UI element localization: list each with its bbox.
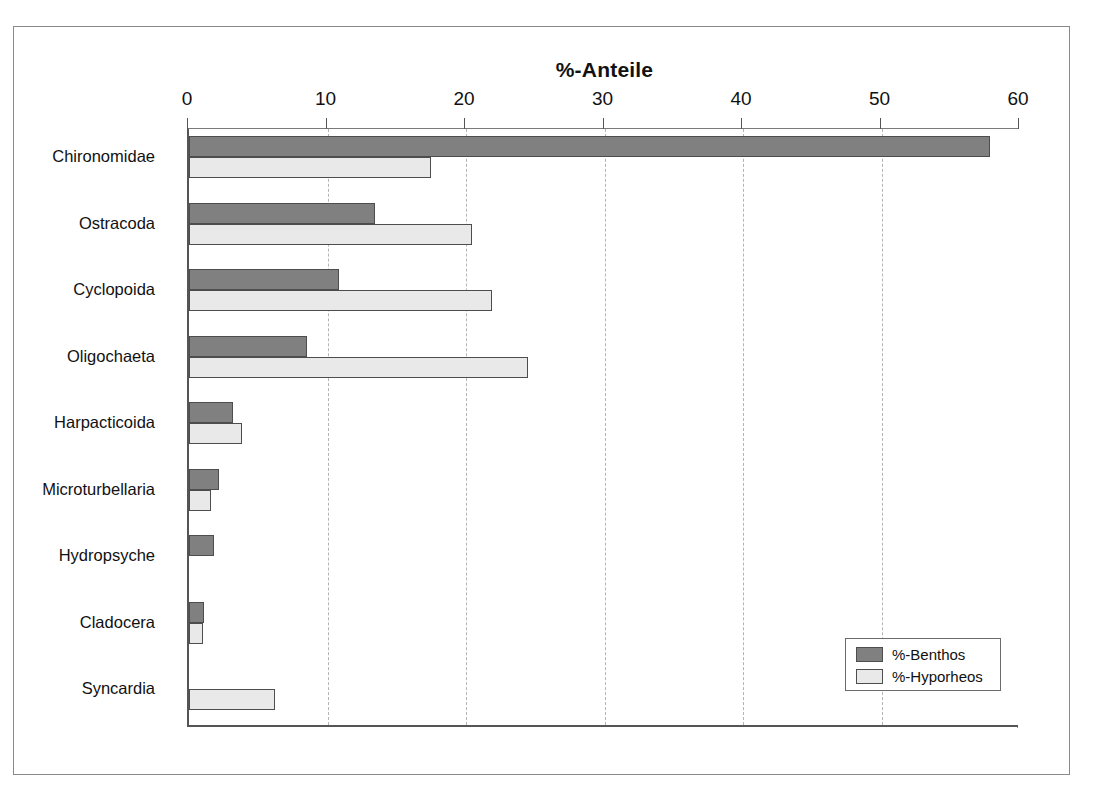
bar-hyporheos	[189, 623, 203, 644]
bar-group	[189, 469, 1018, 511]
x-tick-mark	[603, 118, 604, 129]
bar-hyporheos	[189, 224, 472, 245]
x-tick-mark	[464, 118, 465, 129]
x-tick-label: 0	[182, 88, 193, 110]
x-tick-label: 10	[315, 88, 336, 110]
x-tick-label: 40	[730, 88, 751, 110]
x-tick-label: 30	[592, 88, 613, 110]
x-tick-mark	[326, 118, 327, 129]
chart-page: %-Anteile 0102030405060 ChironomidaeOstr…	[0, 0, 1095, 799]
x-tick-mark	[187, 118, 188, 129]
bar-benthos	[189, 203, 375, 224]
category-label: Harpacticoida	[54, 413, 155, 432]
bar-hyporheos	[189, 290, 492, 311]
category-label: Syncardia	[82, 679, 155, 698]
x-tick-label: 60	[1007, 88, 1028, 110]
x-axis-tick-labels: 0102030405060	[187, 88, 1022, 118]
bar-group	[189, 336, 1018, 378]
chart-title: %-Anteile	[187, 58, 1022, 82]
category-label: Cyclopoida	[73, 280, 155, 299]
x-tick-label: 50	[869, 88, 890, 110]
bar-benthos	[189, 336, 307, 357]
chart-legend: %-Benthos %-Hyporheos	[845, 638, 1001, 691]
x-tick-mark	[1018, 118, 1019, 129]
bar-hyporheos	[189, 490, 211, 511]
legend-item-benthos: %-Benthos	[856, 644, 1000, 665]
x-tick-label: 20	[453, 88, 474, 110]
legend-label-hyporheos: %-Hyporheos	[892, 668, 983, 685]
bar-group	[189, 535, 1018, 577]
bar-benthos	[189, 269, 339, 290]
bar-benthos	[189, 402, 233, 423]
bar-benthos	[189, 535, 214, 556]
bar-benthos	[189, 602, 204, 623]
bar-group	[189, 269, 1018, 311]
y-axis-category-labels: ChironomidaeOstracodaCyclopoidaOligochae…	[0, 128, 173, 727]
bar-group	[189, 203, 1018, 245]
legend-label-benthos: %-Benthos	[892, 646, 965, 663]
legend-swatch-hyporheos	[856, 669, 883, 684]
category-label: Hydropsyche	[59, 546, 155, 565]
bar-benthos	[189, 136, 990, 157]
bar-group	[189, 136, 1018, 178]
bar-hyporheos	[189, 157, 431, 178]
bar-hyporheos	[189, 423, 242, 444]
x-tick-mark	[741, 118, 742, 129]
category-label: Oligochaeta	[67, 346, 155, 365]
category-label: Ostracoda	[79, 213, 155, 232]
legend-item-hyporheos: %-Hyporheos	[856, 666, 1000, 687]
bar-hyporheos	[189, 689, 275, 710]
x-tick-mark	[880, 118, 881, 129]
legend-swatch-benthos	[856, 647, 883, 662]
category-label: Cladocera	[80, 612, 155, 631]
category-label: Chironomidae	[52, 147, 155, 166]
category-label: Microturbellaria	[42, 479, 155, 498]
bar-hyporheos	[189, 357, 528, 378]
bar-benthos	[189, 469, 219, 490]
bar-group	[189, 402, 1018, 444]
